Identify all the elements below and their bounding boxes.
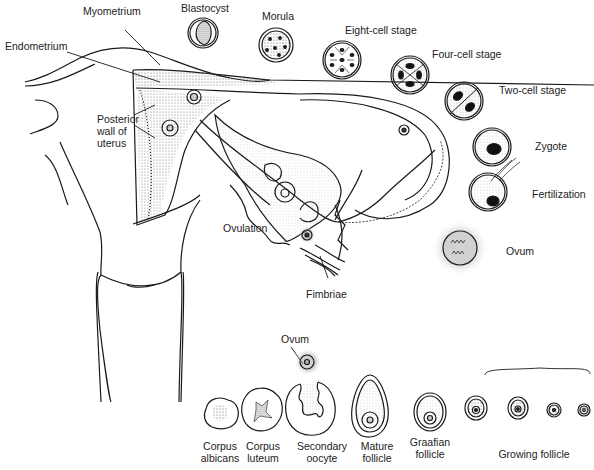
diagram-artwork bbox=[0, 0, 594, 470]
label-fimbriae: Fimbriae bbox=[306, 288, 347, 300]
four-cell-icon bbox=[391, 56, 429, 94]
label-line: Corpus bbox=[201, 440, 240, 452]
label-line: Graafian bbox=[410, 436, 450, 448]
secondary-oocyte-icon bbox=[286, 348, 336, 435]
morula-icon bbox=[259, 28, 293, 62]
graafian-follicle-seq-icon bbox=[414, 393, 446, 431]
ovum-icon bbox=[432, 220, 488, 276]
label-ovulation: Ovulation bbox=[223, 222, 267, 234]
label-mature-follicle: Mature follicle bbox=[361, 440, 394, 464]
label-ovum: Ovum bbox=[506, 245, 534, 257]
label-ovum-released: Ovum bbox=[281, 333, 309, 345]
blastocyst-icon bbox=[188, 18, 218, 48]
label-four-cell: Four-cell stage bbox=[432, 48, 501, 60]
label-line: Mature bbox=[361, 440, 394, 452]
label-line: follicle bbox=[410, 448, 450, 460]
label-fertilization: Fertilization bbox=[532, 188, 586, 200]
label-endometrium: Endometrium bbox=[5, 40, 67, 52]
corpus-albicans-icon bbox=[204, 398, 238, 429]
growing-follicle-brace bbox=[485, 368, 590, 375]
label-eight-cell: Eight-cell stage bbox=[345, 24, 417, 36]
two-cell-icon bbox=[445, 82, 483, 120]
follicle-sequence bbox=[204, 348, 590, 437]
label-blastocyst: Blastocyst bbox=[181, 2, 229, 14]
label-line: Secondary bbox=[297, 440, 347, 452]
mature-follicle-icon bbox=[352, 375, 389, 437]
cervix-vagina bbox=[96, 272, 184, 402]
label-myometrium: Myometrium bbox=[83, 5, 141, 17]
diagram-canvas: Myometrium Endometrium Blastocyst Morula… bbox=[0, 0, 594, 470]
label-morula: Morula bbox=[262, 10, 294, 22]
label-line: luteum bbox=[246, 452, 280, 464]
zygote-icon bbox=[473, 128, 511, 166]
label-two-cell: Two-cell stage bbox=[499, 84, 566, 96]
label-zygote: Zygote bbox=[535, 140, 567, 152]
label-line: albicans bbox=[201, 452, 240, 464]
label-line: oocyte bbox=[297, 452, 347, 464]
label-growing-follicle: Growing follicle bbox=[498, 448, 569, 460]
corpus-luteum-seq-icon bbox=[242, 388, 283, 431]
label-corpus-albicans: Corpus albicans bbox=[201, 440, 240, 464]
label-posterior-wall: Posterior wall of uterus bbox=[97, 113, 147, 149]
label-corpus-luteum: Corpus luteum bbox=[246, 440, 280, 464]
label-secondary-oocyte: Secondary oocyte bbox=[297, 440, 347, 464]
label-graafian-follicle: Graafian follicle bbox=[410, 436, 450, 460]
label-line: Corpus bbox=[246, 440, 280, 452]
eight-cell-icon bbox=[323, 41, 361, 79]
growing-follicle-icons bbox=[465, 396, 590, 420]
label-line: follicle bbox=[361, 452, 394, 464]
